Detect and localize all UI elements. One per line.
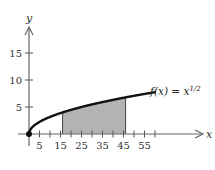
x-tick-label: 5	[36, 140, 42, 151]
x-tick-label: 25	[75, 140, 88, 151]
x-tick-label: 15	[54, 140, 67, 151]
y-axis-label: y	[25, 12, 33, 25]
x-tick-label: 55	[138, 140, 151, 151]
x-axis-label: x	[206, 128, 213, 141]
y-tick-label: 15	[9, 48, 22, 59]
x-tick-label: 45	[117, 140, 130, 151]
chart-svg: 51525354555 51015 x y f(x) = x1/2	[0, 0, 215, 170]
function-label-exponent: 1/2	[189, 85, 201, 93]
x-tick-label: 35	[96, 140, 109, 151]
origin-point	[26, 131, 32, 137]
function-label: f(x) = x1/2	[149, 85, 201, 97]
y-tick-label: 10	[9, 75, 22, 86]
function-label-base: f(x) = x	[149, 85, 189, 97]
y-tick-label: 5	[16, 102, 22, 113]
